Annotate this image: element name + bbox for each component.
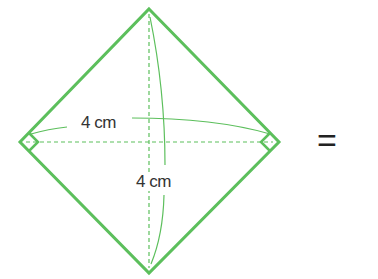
horizontal-measure-arc-left: [31, 127, 67, 134]
vertical-measure-arc-bottom: [151, 195, 164, 264]
horizontal-diagonal-label: 4 cm: [80, 114, 117, 132]
vertical-diagonal-label: 4 cm: [135, 173, 172, 191]
vertical-measure-arc-top: [150, 17, 165, 165]
equals-sign: =: [317, 130, 337, 150]
horizontal-measure-arc-right: [132, 118, 270, 134]
